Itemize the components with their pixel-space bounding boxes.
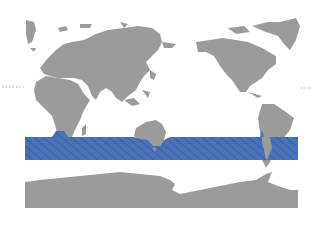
- world-map: [0, 0, 313, 228]
- land-antarctica: [25, 172, 298, 208]
- land-north-america: [162, 18, 300, 98]
